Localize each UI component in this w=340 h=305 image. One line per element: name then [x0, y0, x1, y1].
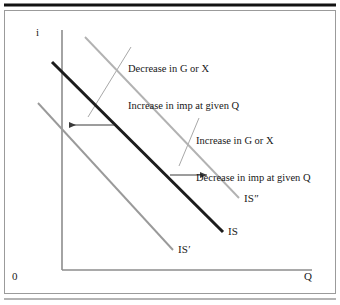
x-axis-label: Q	[304, 270, 312, 283]
curve-label-is-prime-text: IS	[178, 243, 188, 255]
annotation-rightward-line2: Decrease in imp at given Q	[196, 172, 311, 184]
y-axis-label: i	[36, 26, 39, 39]
curve-label-is: IS	[228, 225, 238, 238]
annotation-rightward-line1: Increase in G or X	[196, 135, 311, 147]
origin-label: 0	[12, 270, 18, 283]
leader-line-decrease	[88, 47, 131, 117]
curve-label-is-prime-mark: ′	[188, 243, 191, 255]
is-curve-diagram: i Q 0 Decrease in G or X Increase in imp…	[0, 0, 340, 305]
curve-label-is-double-prime: IS″	[244, 192, 259, 205]
curve-label-is-double-prime-mark: ″	[254, 192, 259, 204]
curve-label-is-text: IS	[228, 225, 238, 237]
curve-label-is-double-prime-text: IS	[244, 192, 254, 204]
annotation-leftward-line1: Decrease in G or X	[128, 63, 239, 75]
curve-label-is-prime: IS′	[178, 243, 191, 256]
